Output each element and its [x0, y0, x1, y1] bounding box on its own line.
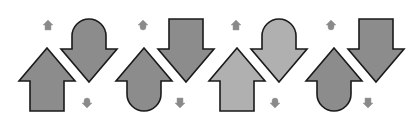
up-arrow-icon: [306, 48, 362, 111]
up-arrow-icon: [209, 48, 265, 111]
arrow-panel-3: [209, 19, 307, 111]
arrow-figure: [0, 0, 411, 128]
small-up-arrow-icon: [43, 20, 53, 30]
arrow-panel-2: [116, 19, 214, 111]
small-up-arrow-icon: [231, 20, 241, 30]
small-up-arrow-icon: [138, 20, 148, 30]
down-arrow-icon: [251, 19, 307, 82]
small-up-arrow-icon: [326, 20, 336, 30]
up-arrow-icon: [116, 48, 172, 111]
down-arrow-icon: [158, 19, 214, 82]
arrow-panel-4: [306, 19, 404, 111]
arrow-diagram-canvas: [0, 0, 411, 128]
small-down-arrow-icon: [82, 98, 92, 108]
arrow-panel-1: [19, 19, 117, 111]
down-arrow-icon: [61, 19, 117, 82]
up-arrow-icon: [19, 48, 75, 111]
down-arrow-icon: [348, 19, 404, 82]
small-down-arrow-icon: [363, 98, 373, 108]
small-down-arrow-icon: [175, 98, 185, 108]
small-down-arrow-icon: [270, 98, 280, 108]
